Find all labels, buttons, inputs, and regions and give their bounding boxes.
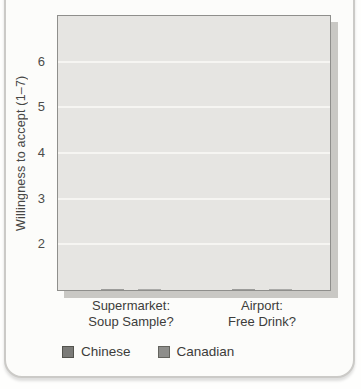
- x-category-label-line: Supermarket:: [88, 298, 173, 314]
- y-axis-tick-labels: 23456: [0, 16, 51, 290]
- bar-chinese-2: [232, 289, 255, 290]
- gridline: [58, 198, 330, 200]
- legend-swatch-canadian: [158, 346, 170, 358]
- x-category-label-1: Supermarket:Soup Sample?: [88, 298, 173, 330]
- y-tick-label: 3: [38, 191, 45, 206]
- y-tick-label: 6: [38, 54, 45, 69]
- bar-group-1: [101, 289, 161, 290]
- page: Willingness to accept (1–7) 23456 Superm…: [0, 0, 361, 389]
- gridline: [58, 61, 330, 63]
- legend: ChineseCanadian: [62, 344, 248, 359]
- legend-swatch-chinese: [62, 346, 74, 358]
- bar-canadian-1: [138, 289, 161, 290]
- x-category-label-line: Airport:: [228, 298, 296, 314]
- y-tick-label: 5: [38, 99, 45, 114]
- legend-label-chinese: Chinese: [81, 344, 131, 359]
- legend-item-canadian: Canadian: [158, 344, 249, 359]
- x-category-label-2: Airport:Free Drink?: [228, 298, 296, 330]
- x-category-label-line: Soup Sample?: [88, 314, 173, 330]
- bar-chinese-1: [101, 289, 124, 290]
- bar-group-2: [232, 289, 292, 290]
- y-tick-label: 4: [38, 145, 45, 160]
- plot-area: [57, 15, 331, 291]
- legend-item-chinese: Chinese: [62, 344, 145, 359]
- x-category-label-line: Free Drink?: [228, 314, 296, 330]
- gridline: [58, 152, 330, 154]
- y-tick-label: 2: [38, 236, 45, 251]
- bar-canadian-2: [269, 289, 292, 290]
- legend-label-canadian: Canadian: [177, 344, 235, 359]
- gridline: [58, 243, 330, 245]
- gridline: [58, 106, 330, 108]
